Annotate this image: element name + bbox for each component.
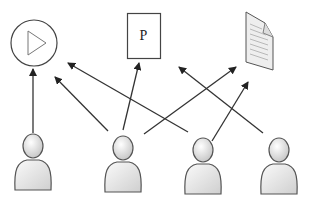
text-document-icon	[246, 12, 273, 70]
user-icon-2	[105, 136, 141, 192]
user-resource-diagram: P	[0, 0, 311, 216]
user-icon-1	[15, 134, 51, 190]
play-circle-icon	[11, 20, 57, 66]
edges	[33, 63, 263, 141]
edge-user3-video	[68, 63, 188, 132]
edge-user3-document	[212, 82, 248, 141]
user-icon-4	[261, 138, 297, 194]
user-icon-3	[185, 138, 221, 194]
p-document-icon: P	[128, 14, 161, 59]
diagram-svg: P	[0, 0, 311, 216]
svg-text:P: P	[140, 28, 148, 43]
edge-user2-video	[55, 77, 108, 131]
